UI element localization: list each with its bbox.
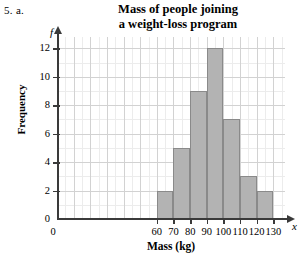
chart-title-line-2: a weight-loss program	[56, 17, 300, 32]
histogram-bar	[190, 91, 207, 219]
y-axis-tick	[53, 134, 60, 135]
x-axis-tick	[240, 218, 241, 224]
x-axis-tick-label: 0	[40, 226, 66, 237]
x-axis-title: Mass (kg)	[57, 240, 285, 252]
histogram-bar	[157, 191, 174, 219]
histogram-bar	[207, 48, 224, 219]
x-axis-tick	[257, 218, 258, 224]
y-axis-tick	[53, 48, 60, 49]
chart-title-line-1: Mass of people joining	[56, 2, 300, 17]
x-axis-variable: x	[292, 221, 297, 232]
histogram-bars	[57, 37, 285, 219]
y-axis-tick-label: 4	[28, 157, 50, 168]
histogram-bar	[223, 119, 240, 219]
y-axis-tick	[53, 162, 60, 163]
problem-number-label: 5. a.	[4, 4, 24, 17]
histogram-bar	[240, 176, 257, 219]
y-axis-tick-label: 2	[28, 186, 50, 197]
y-axis-title: Frequency	[16, 70, 27, 150]
x-axis-tick-label: 130	[260, 226, 286, 237]
x-axis-tick	[190, 218, 191, 224]
y-axis-arrow-icon	[54, 26, 62, 34]
y-axis-tick	[53, 77, 60, 78]
x-axis-tick	[173, 218, 174, 224]
y-tick-label-group: 024681012	[24, 0, 50, 262]
y-axis-tick-label: 0	[28, 214, 50, 225]
x-axis-tick	[223, 218, 224, 224]
y-axis-tick-label: 12	[28, 43, 50, 54]
histogram-bar	[173, 148, 190, 219]
y-axis-tick-label: 6	[28, 129, 50, 140]
y-axis-tick-label: 8	[28, 100, 50, 111]
y-axis-variable: f	[50, 27, 53, 38]
y-axis-tick	[53, 191, 60, 192]
x-axis-tick	[157, 218, 158, 224]
histogram-bar	[257, 191, 274, 219]
x-axis-tick	[207, 218, 208, 224]
plot-area	[57, 37, 285, 219]
x-axis-tick	[273, 218, 274, 224]
y-axis-tick	[53, 105, 60, 106]
y-axis-tick-label: 10	[28, 72, 50, 83]
chart-title: Mass of people joining a weight-loss pro…	[56, 2, 300, 31]
histogram-figure: 5. a. Mass of people joining a weight-lo…	[0, 0, 308, 262]
